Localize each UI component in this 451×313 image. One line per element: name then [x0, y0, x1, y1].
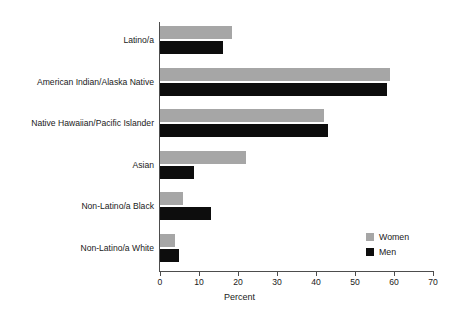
bar-women[interactable]: [160, 234, 175, 247]
x-tick: [394, 272, 395, 276]
bar-women[interactable]: [160, 109, 324, 122]
bar-group: [160, 105, 433, 147]
bar-women[interactable]: [160, 151, 246, 164]
x-tick-label: 30: [265, 277, 289, 287]
x-tick: [277, 272, 278, 276]
legend-swatch-men-icon: [366, 248, 374, 256]
bar-men[interactable]: [160, 249, 179, 262]
bar-men[interactable]: [160, 124, 328, 137]
category-label: American Indian/Alaska Native: [0, 77, 154, 87]
x-tick-label: 70: [421, 277, 445, 287]
x-tick: [316, 272, 317, 276]
bar-group: [160, 188, 433, 230]
x-axis-title-text: Percent: [224, 292, 255, 302]
x-tick-label: 50: [343, 277, 367, 287]
x-tick: [355, 272, 356, 276]
x-tick-label: 60: [382, 277, 406, 287]
bar-men[interactable]: [160, 166, 194, 179]
x-tick-label: 0: [148, 277, 172, 287]
bar-group: [160, 22, 433, 64]
bar-chart: Latino/aAmerican Indian/Alaska NativeNat…: [0, 0, 451, 313]
x-tick-label: 40: [304, 277, 328, 287]
x-axis-line: [159, 271, 434, 272]
x-tick-label: 10: [187, 277, 211, 287]
x-tick: [238, 272, 239, 276]
legend-item-men[interactable]: Men: [366, 245, 409, 258]
legend-swatch-women-icon: [366, 233, 374, 241]
x-axis-title: Percent: [0, 292, 451, 302]
x-tick: [160, 272, 161, 276]
legend-label-men: Men: [379, 247, 396, 257]
legend-label-women: Women: [379, 232, 409, 242]
bar-women[interactable]: [160, 192, 183, 205]
x-tick: [199, 272, 200, 276]
legend-item-women[interactable]: Women: [366, 230, 409, 243]
category-label: Asian: [0, 160, 154, 170]
category-label: Native Hawaiian/Pacific Islander: [0, 118, 154, 128]
bar-women[interactable]: [160, 68, 390, 81]
bar-men[interactable]: [160, 83, 387, 96]
category-label: Non-Latino/a Black: [0, 201, 154, 211]
chart-legend: Women Men: [366, 230, 409, 260]
bar-group: [160, 147, 433, 189]
bar-women[interactable]: [160, 26, 232, 39]
bar-men[interactable]: [160, 41, 223, 54]
bar-men[interactable]: [160, 207, 211, 220]
category-label: Non-Latino/a White: [0, 243, 154, 253]
category-label: Latino/a: [0, 35, 154, 45]
x-tick-label: 20: [226, 277, 250, 287]
x-tick: [433, 272, 434, 276]
bar-group: [160, 64, 433, 106]
